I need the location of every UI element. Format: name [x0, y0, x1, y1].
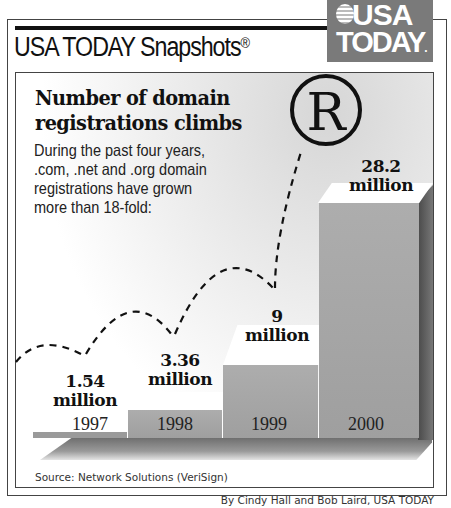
- description-line: During the past four years,: [34, 141, 207, 160]
- headline-line-1: Number of domain: [35, 85, 242, 110]
- description-line: .com, .net and .org domain: [34, 160, 207, 179]
- headline-line-2: registrations climbs: [35, 110, 242, 135]
- headline: Number of domainregistrations climbs: [35, 85, 242, 135]
- registered-trademark-icon: R: [290, 74, 362, 146]
- description: During the past four years, .com, .net a…: [34, 141, 207, 217]
- byline: By Cindy Hall and Bob Laird, USA TODAY: [221, 494, 434, 506]
- registered-trademark-letter: R: [306, 86, 345, 138]
- description-line: more than 18-fold:: [34, 198, 207, 217]
- description-line: registrations have grown: [34, 179, 207, 198]
- bounce-arcs: [0, 0, 451, 508]
- source-note: Source: Network Solutions (VeriSign): [35, 471, 228, 483]
